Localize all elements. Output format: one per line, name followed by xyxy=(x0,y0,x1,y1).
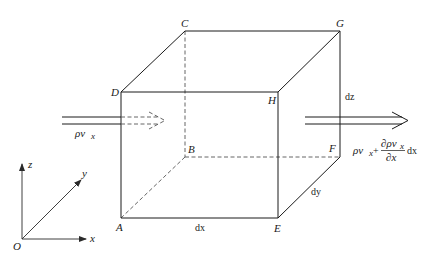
x-axis-label: x xyxy=(89,232,95,244)
outflow-label-numerator: ∂ρv xyxy=(381,137,397,149)
outflow-arrow xyxy=(305,112,408,129)
y-axis xyxy=(22,180,81,239)
outflow-label-denominator: ∂x xyxy=(386,151,396,163)
label-dx: dx xyxy=(195,222,205,233)
inflow-arrowhead xyxy=(149,112,165,129)
outflow-arrowhead xyxy=(392,112,408,129)
label-d: D xyxy=(110,86,119,98)
inflow-label: ρv x xyxy=(74,127,95,141)
outflow-label-main: ρv xyxy=(352,144,363,156)
label-g: G xyxy=(336,17,344,29)
label-dz: dz xyxy=(345,91,355,102)
label-f: F xyxy=(328,142,336,154)
label-a: A xyxy=(115,221,123,233)
edge-ba xyxy=(121,157,185,218)
y-axis-label: y xyxy=(81,167,87,179)
z-axis-label: z xyxy=(27,158,33,170)
origin-label: O xyxy=(13,240,21,252)
coordinate-axes: O z y x xyxy=(13,158,95,252)
outflow-label-plus: + xyxy=(373,145,379,156)
inflow-label-sub: x xyxy=(90,131,95,141)
label-dy: dy xyxy=(311,186,321,197)
control-volume-diagram: C G D H B F A E dx dy dz ρv x ρv x + ∂ρv… xyxy=(0,0,424,261)
label-c: C xyxy=(181,17,189,29)
label-b: B xyxy=(188,143,195,155)
dimension-labels: dx dy dz xyxy=(195,91,355,233)
inflow-label-main: ρv xyxy=(74,127,85,139)
edge-ef xyxy=(278,157,340,218)
outflow-label: ρv x + ∂ρv x ∂x dx xyxy=(352,137,417,163)
outflow-label-numerator-sub: x xyxy=(399,141,404,151)
label-h: H xyxy=(267,94,277,106)
edge-hg xyxy=(278,31,340,92)
label-e: E xyxy=(273,222,281,234)
outflow-label-suffix: dx xyxy=(407,145,417,156)
vertex-labels: C G D H B F A E xyxy=(110,17,344,234)
edge-dc xyxy=(121,31,185,92)
